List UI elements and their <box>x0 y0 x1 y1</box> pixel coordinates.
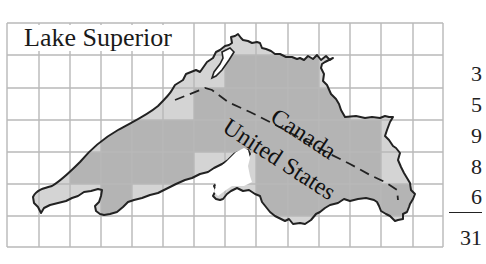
row-count-5: 6 <box>452 186 482 208</box>
row-count-4: 8 <box>452 156 482 178</box>
row-count-2: 5 <box>452 94 482 116</box>
row-count-3: 9 <box>452 125 482 147</box>
figure-title: Lake Superior <box>22 25 174 51</box>
row-count-total: 31 <box>452 227 482 249</box>
row-count-1: 3 <box>452 63 482 85</box>
lake-superior-figure: Lake Superior Canada United States 3 5 9… <box>0 0 486 264</box>
sum-divider <box>449 212 482 213</box>
